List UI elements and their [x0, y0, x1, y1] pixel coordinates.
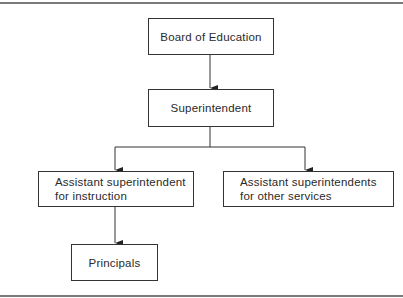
node-label: Board of Education — [160, 30, 261, 44]
node-label: Principals — [89, 256, 141, 270]
node-label-line2: for instruction — [55, 189, 193, 203]
node-superintendent: Superintendent — [148, 89, 274, 127]
node-assistant-superintendents-other-services: Assistant superintendents for other serv… — [223, 171, 394, 207]
node-label-line2: for other services — [240, 189, 393, 203]
node-assistant-superintendent-instruction: Assistant superintendent for instruction — [38, 171, 194, 207]
node-principals: Principals — [71, 244, 158, 281]
node-label: Superintendent — [171, 101, 252, 115]
node-label-line1: Assistant superintendents — [240, 175, 393, 189]
node-label-line1: Assistant superintendent — [55, 175, 193, 189]
node-board-of-education: Board of Education — [148, 18, 274, 55]
